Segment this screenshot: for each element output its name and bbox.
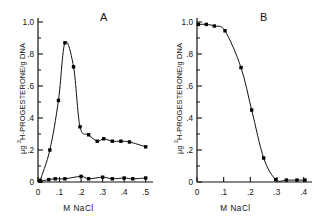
- chart-panel-a: µg 3H-PROGESTERONE/g DNA A 0.2.4.6.81.00…: [0, 0, 157, 223]
- data-point-marker: [239, 66, 242, 69]
- y-tick-label: .2: [27, 146, 34, 155]
- plot-area-a: 0.2.4.6.81.00.1.2.3.4.5: [0, 0, 157, 223]
- figure-container: µg 3H-PROGESTERONE/g DNA A 0.2.4.6.81.00…: [0, 0, 314, 223]
- series-curve: [40, 42, 146, 181]
- data-point-marker: [102, 137, 105, 140]
- data-point-marker: [96, 140, 99, 143]
- x-tick-label: 0: [195, 188, 200, 197]
- x-tick-label: .3: [274, 188, 281, 197]
- data-point-marker: [295, 178, 298, 181]
- y-tick-label: .4: [186, 114, 193, 123]
- y-tick-label: .8: [27, 50, 34, 59]
- data-point-marker: [274, 178, 277, 181]
- x-tick-label: .2: [247, 188, 254, 197]
- y-tick-label: 0: [29, 178, 34, 187]
- x-tick-label: .1: [56, 188, 63, 197]
- data-point-marker: [87, 177, 90, 180]
- data-point-marker: [63, 177, 66, 180]
- data-point-marker: [197, 23, 200, 26]
- data-point-marker: [119, 140, 122, 143]
- y-tick-label: .2: [186, 146, 193, 155]
- data-point-marker: [144, 176, 147, 179]
- chart-panel-b: µg 3H-PROGESTERONE/g DNA B 0.2.4.6.81.00…: [157, 0, 314, 223]
- y-tick-label: 1.0: [182, 18, 194, 27]
- data-point-marker: [223, 29, 226, 32]
- data-point-marker: [111, 177, 114, 180]
- data-point-marker: [250, 108, 253, 111]
- x-tick-label: .3: [99, 188, 106, 197]
- x-tick-label: 0: [36, 188, 41, 197]
- data-point-marker: [262, 156, 265, 159]
- y-tick-label: .6: [27, 82, 34, 91]
- series-curve: [198, 24, 305, 181]
- x-axis-label-a: M NaCl: [0, 204, 157, 213]
- x-tick-label: .2: [78, 188, 85, 197]
- data-point-marker: [111, 140, 114, 143]
- data-point-marker: [205, 23, 208, 26]
- data-point-marker: [101, 176, 104, 179]
- x-tick-label: .1: [220, 188, 227, 197]
- y-tick-label: 1.0: [23, 18, 35, 27]
- y-tick-label: .6: [186, 82, 193, 91]
- y-tick-label: .8: [186, 50, 193, 59]
- data-point-marker: [79, 175, 82, 178]
- x-tick-label: .4: [121, 188, 128, 197]
- data-point-marker: [63, 41, 66, 44]
- data-point-marker: [47, 178, 50, 181]
- x-tick-label: .5: [142, 188, 149, 197]
- y-tick-label: 0: [188, 178, 193, 187]
- x-tick-label: .4: [300, 188, 307, 197]
- data-point-marker: [285, 178, 288, 181]
- data-point-marker: [128, 140, 131, 143]
- data-point-marker: [213, 24, 216, 27]
- x-axis-label-b: M NaCl: [157, 204, 314, 213]
- data-point-marker: [303, 178, 306, 181]
- data-point-marker: [87, 133, 90, 136]
- data-point-marker: [144, 145, 147, 148]
- data-point-marker: [48, 148, 51, 151]
- plot-area-b: 0.2.4.6.81.00.1.2.3.4: [157, 0, 314, 223]
- data-point-marker: [38, 180, 41, 183]
- data-point-marker: [57, 99, 60, 102]
- y-tick-label: .4: [27, 114, 34, 123]
- data-point-marker: [72, 65, 75, 68]
- data-point-marker: [54, 177, 57, 180]
- data-point-marker: [78, 125, 81, 128]
- data-point-marker: [131, 177, 134, 180]
- data-point-marker: [122, 176, 125, 179]
